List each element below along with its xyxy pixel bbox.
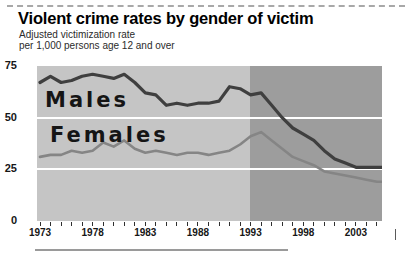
x-tick-1991 [229, 222, 230, 226]
x-tick-1976 [71, 222, 72, 226]
x-tick-1983 [145, 222, 146, 226]
x-tick-1980 [113, 222, 114, 226]
x-tick-1981 [124, 222, 125, 226]
x-tick-label-1988: 1988 [181, 227, 215, 238]
x-tick-1978 [92, 222, 93, 226]
x-tick-1986 [176, 222, 177, 226]
x-tick-1982 [134, 222, 135, 226]
x-tick-1973 [40, 222, 41, 226]
x-tick-2001 [334, 222, 335, 226]
x-tick-label-1998: 1998 [286, 227, 320, 238]
x-tick-1977 [82, 222, 83, 226]
x-tick-1987 [187, 222, 188, 226]
chart-title: Violent crime rates by gender of victim [18, 9, 313, 28]
cursor-artifact [395, 229, 396, 240]
x-tick-1975 [61, 222, 62, 226]
x-tick-2003 [355, 222, 356, 226]
x-tick-1992 [240, 222, 241, 226]
x-tick-2004 [366, 222, 367, 226]
x-tick-1985 [166, 222, 167, 226]
x-tick-label-1978: 1978 [76, 227, 110, 238]
x-tick-1999 [313, 222, 314, 226]
chart-subtitle-line2: per 1,000 persons age 12 and over [19, 40, 175, 51]
bottom-rule [35, 249, 288, 251]
x-tick-1994 [261, 222, 262, 226]
y-axis-labels: 7550250 [0, 0, 17, 256]
x-tick-label-2003: 2003 [339, 227, 373, 238]
females-series-label: Females [50, 123, 169, 147]
x-tick-1995 [271, 222, 272, 226]
x-tick-1990 [219, 222, 220, 226]
y-tick-label-75: 75 [0, 59, 17, 71]
males-series-label: Males [45, 88, 129, 112]
x-tick-label-1973: 1973 [23, 227, 57, 238]
x-tick-2002 [345, 222, 346, 226]
x-tick-1993 [250, 222, 251, 226]
y-tick-label-25: 25 [0, 162, 17, 174]
x-tick-2000 [324, 222, 325, 226]
top-dashed-border [7, 5, 405, 7]
x-tick-1974 [50, 222, 51, 226]
x-tick-1989 [208, 222, 209, 226]
x-tick-label-1983: 1983 [128, 227, 162, 238]
x-tick-label-1993: 1993 [234, 227, 268, 238]
plot-area: Males Females [37, 66, 382, 221]
chart-subtitle-line1: Adjusted victimization rate [19, 29, 135, 40]
x-tick-1996 [282, 222, 283, 226]
x-tick-1984 [155, 222, 156, 226]
x-tick-1997 [292, 222, 293, 226]
x-tick-1979 [103, 222, 104, 226]
x-tick-1988 [197, 222, 198, 226]
x-axis-labels: 1973197819831988199319982003 [37, 227, 397, 239]
x-tick-2005 [376, 222, 377, 226]
y-tick-label-50: 50 [0, 111, 17, 123]
y-tick-label-0: 0 [0, 214, 17, 226]
x-tick-1998 [303, 222, 304, 226]
